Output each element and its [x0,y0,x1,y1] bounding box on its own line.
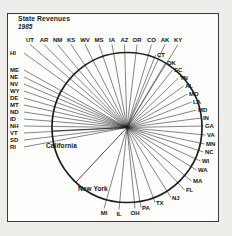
slice-leader-line-pa [127,128,141,208]
state-label-oh: OH [131,210,140,216]
state-label-ma: MA [193,178,203,184]
state-label-pa: PA [142,205,150,211]
state-label-wv: WV [80,37,90,43]
wedge-boundary-line-0 [52,128,127,132]
slice-leader-line-il [119,128,127,210]
state-label-nj: NJ [172,195,179,201]
state-label-ri: RI [10,144,16,150]
state-label-ms: MS [95,37,104,43]
state-label-ut: UT [26,37,34,43]
state-label-la: LA [193,99,202,105]
state-label-nv: NV [10,81,18,87]
state-label-nh: NH [10,123,18,129]
state-label-mi: MI [101,210,108,216]
slice-leader-line-oh [127,128,135,209]
slice-leader-line-co [127,45,152,128]
state-label-tx: TX [156,200,164,206]
state-label-il: IL [116,211,122,217]
state-label-vt: VT [10,130,18,136]
slice-leader-line-wi [127,128,201,162]
state-label-or: OR [133,37,143,43]
state-label-sd: SD [10,137,19,143]
state-label-hi: HI [10,50,16,56]
state-label-in: IN [203,115,209,121]
state-label-ne: NE [10,74,18,80]
state-label-ct: CT [157,52,165,58]
state-label-tn: TN [180,75,188,81]
interior-label-california: California [46,142,77,149]
slice-leader-line-mn [127,128,205,145]
slice-leader-line-md [127,110,197,128]
state-label-wy: WY [10,88,20,94]
slice-leader-line-sd [24,128,127,141]
state-label-sc: SC [174,67,183,73]
state-label-mo: MO [189,91,199,97]
state-label-nm: NM [53,37,62,43]
slice-leader-line-mo [127,94,188,128]
state-label-fl: FL [186,187,194,193]
state-label-id: ID [10,116,17,122]
state-label-wi: WI [202,158,210,164]
state-label-ak: AK [161,37,170,43]
interior-label-new-york: New York [78,185,108,192]
slice-leader-line-ma [127,128,192,182]
pie-chart: RISDVTNHIDNDMTDEWYNVNEMEHIUTARNMKSWVMSIA… [0,0,232,236]
slice-leader-line-ar [44,45,127,128]
state-label-ky: KY [174,37,182,43]
slice-leader-line-me [24,70,127,128]
state-label-nc: NC [205,149,214,155]
state-label-de: DE [10,95,18,101]
state-label-ks: KS [67,37,75,43]
state-label-mn: MN [206,141,215,147]
state-label-mt: MT [10,102,19,108]
state-label-az: AZ [121,37,129,43]
slice-leader-line-sc [127,70,173,128]
state-label-co: CO [147,37,156,43]
state-label-va: VA [207,132,215,138]
state-label-al: AL [185,83,193,89]
state-label-wa: WA [198,167,208,173]
slice-leader-line-ks [71,45,127,128]
state-label-md: MD [198,107,208,113]
slice-leader-line-wa [127,128,197,171]
state-label-ga: GA [205,123,215,129]
state-label-nd: ND [10,109,19,115]
state-label-me: ME [10,67,19,73]
slice-leader-line-ok [127,63,166,128]
state-label-ar: AR [40,37,49,43]
state-label-ia: IA [109,37,116,43]
state-label-ok: OK [167,60,177,66]
